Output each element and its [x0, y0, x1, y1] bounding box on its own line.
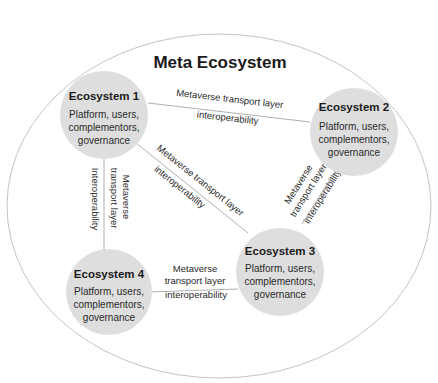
meta-ecosystem-diagram: Meta Ecosystem Metaverse transport layer…	[0, 0, 438, 383]
svg-text:Platform, users,: Platform, users,	[319, 121, 389, 132]
svg-text:governance: governance	[328, 147, 381, 158]
link-label-eco1-eco4: Metaverse transport layer Interoperabili…	[90, 168, 132, 231]
svg-text:complementors,: complementors,	[318, 134, 389, 145]
meta-ecosystem-boundary	[7, 34, 431, 378]
svg-text:Metaverse: Metaverse	[121, 175, 132, 219]
node-title: Ecosystem 3	[245, 245, 315, 257]
node-title: Ecosystem 1	[69, 90, 140, 102]
diagram-title: Meta Ecosystem	[153, 53, 286, 72]
svg-text:governance: governance	[83, 312, 136, 323]
svg-text:Platform, users,: Platform, users,	[69, 109, 139, 120]
svg-text:Metaverse transport layer: Metaverse transport layer	[176, 87, 284, 110]
svg-text:complementors,: complementors,	[244, 276, 315, 287]
node-title: Ecosystem 4	[74, 268, 145, 280]
svg-text:governance: governance	[254, 289, 307, 300]
node-ecosystem-4: Ecosystem 4 Platform, users, complemento…	[66, 249, 152, 335]
svg-text:Metaverse: Metaverse	[173, 263, 217, 274]
svg-text:transport layer: transport layer	[165, 275, 226, 286]
node-title: Ecosystem 2	[319, 101, 389, 113]
node-ecosystem-1: Ecosystem 1 Platform, users, complemento…	[60, 71, 148, 159]
svg-text:complementors,: complementors,	[68, 122, 139, 133]
svg-text:interoperability: interoperability	[165, 289, 227, 300]
svg-text:governance: governance	[78, 135, 131, 146]
svg-text:Platform, users,: Platform, users,	[74, 286, 144, 297]
node-ecosystem-2: Ecosystem 2 Platform, users, complemento…	[310, 88, 398, 176]
svg-text:Interoperability: Interoperability	[90, 168, 101, 231]
svg-text:transport layer: transport layer	[109, 168, 120, 229]
svg-text:interoperability: interoperability	[196, 108, 259, 126]
svg-text:Platform, users,: Platform, users,	[245, 263, 315, 274]
link-label-eco4-eco3: Metaverse transport layer interoperabili…	[165, 263, 228, 300]
link-label-eco1-eco3: Metaverse transport layer interoperabili…	[144, 142, 246, 232]
svg-text:complementors,: complementors,	[73, 299, 144, 310]
node-ecosystem-3: Ecosystem 3 Platform, users, complemento…	[236, 228, 324, 316]
